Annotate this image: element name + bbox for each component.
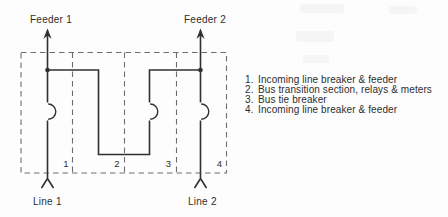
bus-tie-breaker-icon [150, 104, 158, 119]
feeder-1-label: Feeder 1 [30, 14, 72, 25]
line-2-arrowhead-icon [195, 179, 207, 189]
feeder-2-arrow-icon [196, 29, 204, 71]
line-2-breaker-icon [201, 104, 209, 119]
feeder-2-label: Feeder 2 [184, 14, 226, 25]
double-ended-switchgear-diagram: Feeder 1 Feeder 2 Line 1 Line 2 1 2 3 4 … [0, 0, 448, 217]
line-1-arrowhead-icon [42, 179, 54, 189]
legend-item-number: 4. [245, 105, 258, 115]
section-number-3: 3 [164, 158, 174, 169]
section-number-1: 1 [61, 158, 71, 169]
legend-item-text: Incoming line breaker & feeder [258, 105, 397, 115]
legend-item-4: 4. Incoming line breaker & feeder [245, 105, 432, 115]
section-number-2: 2 [112, 158, 122, 169]
legend-list: 1. Incoming line breaker & feeder 2. Bus… [245, 75, 432, 115]
line-1-label: Line 1 [33, 196, 62, 207]
incoming-line-2-conductor [195, 70, 207, 188]
section-number-4: 4 [215, 158, 225, 169]
feeder-1-arrow-icon [43, 29, 51, 71]
incoming-line-1-conductor [42, 70, 54, 188]
line-1-breaker-icon [48, 104, 56, 119]
line-2-label: Line 2 [188, 196, 217, 207]
